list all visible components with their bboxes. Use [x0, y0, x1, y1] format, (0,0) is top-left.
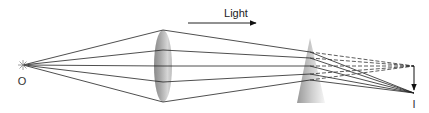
point-source-star-icon	[18, 60, 28, 70]
object-label: O	[18, 75, 27, 87]
thin-prism	[297, 38, 325, 103]
optics-diagram: Light	[0, 0, 429, 113]
light-direction-indicator: Light	[188, 7, 256, 23]
incident-rays	[23, 30, 163, 102]
refracted-rays-lens	[163, 30, 310, 102]
light-label: Light	[224, 7, 248, 19]
image-label: I	[412, 98, 415, 110]
